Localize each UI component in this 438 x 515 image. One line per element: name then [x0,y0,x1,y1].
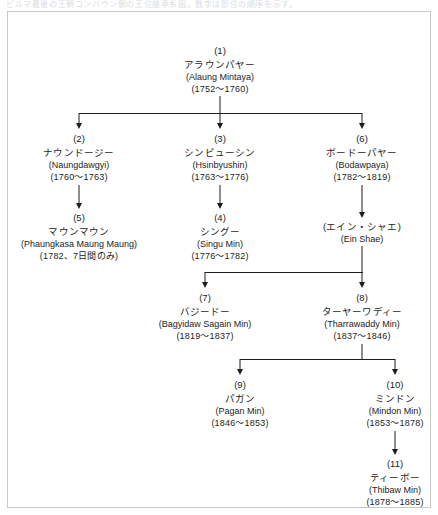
node-9-reign-years: (1846〜1853) [165,417,315,430]
connector-bus-gen1 [79,113,362,114]
node-ein-shae: (エイン・シャエ) (Ein Shae) [287,220,437,246]
arrowhead-to-node-6 [359,123,365,129]
arrowhead-to-node-11 [392,449,398,455]
node-3-name-romanized: (Hsinbyushin) [145,159,295,172]
node-7-name-romanized: (Bagyidaw Sagain Min) [125,318,285,331]
node-6-name-jp: ボードーパヤー [287,146,437,159]
node-10-name-romanized: (Mindon Min) [320,405,438,418]
connector-3-to-4 [220,185,221,204]
connector-10-to-11 [395,431,396,450]
node-4-number: (4) [145,212,295,225]
node-1-alaung-mintaya: (1) アラウンパヤー (Alaung Mintaya) (1752〜1760) [120,45,320,96]
node-8-reign-years: (1837〜1846) [282,330,438,343]
connector-6-to-ein-shae [362,185,363,213]
node-6-name-romanized: (Bodawpaya) [287,159,437,172]
node-5-name-jp: マウンマウン [0,225,164,238]
arrowhead-to-node-7 [202,282,208,288]
node-10-name-jp: ミンドン [320,392,438,405]
node-7-number: (7) [125,292,285,305]
node-9-pagan-min: (9) パガン (Pagan Min) (1846〜1853) [165,379,315,430]
node-ein-shae-name-romanized: (Ein Shae) [287,233,437,246]
connector-bus-gen3 [205,272,363,273]
arrowhead-to-node-4 [217,203,223,209]
arrowhead-to-node-8 [359,282,365,288]
node-11-name-jp: ティーボー [320,471,438,484]
node-6-number: (6) [287,133,437,146]
arrowhead-to-node-5 [76,203,82,209]
node-7-reign-years: (1819〜1837) [125,330,285,343]
node-5-name-romanized: (Phaungkasa Maung Maung) [0,238,164,251]
chart-frame: (1) アラウンパヤー (Alaung Mintaya) (1752〜1760)… [7,11,431,508]
arrowhead-to-node-2 [76,123,82,129]
connector-ein-shae-stem [362,246,363,272]
node-2-name-jp: ナウンドージー [4,146,154,159]
node-1-name-romanized: (Alaung Mintaya) [120,71,320,84]
connector-bus-gen4 [240,359,395,360]
node-8-number: (8) [282,292,438,305]
node-4-singu-min: (4) シングー (Singu Min) (1776〜1782) [145,212,295,263]
connector-8-stem [362,344,363,359]
node-8-tharrawaddy-min: (8) ターヤーワディー (Tharrawaddy Min) (1837〜184… [282,292,438,343]
node-2-naungdawgyi: (2) ナウンドージー (Naungdawgyi) (1760〜1763) [4,133,154,184]
node-3-number: (3) [145,133,295,146]
node-11-name-romanized: (Thibaw Min) [320,484,438,497]
node-7-bagyidaw-sagain-min: (7) バジードー (Bagyidaw Sagain Min) (1819〜18… [125,292,285,343]
arrowhead-to-node-9 [237,369,243,375]
node-3-hsinbyushin: (3) シンビューシン (Hsinbyushin) (1763〜1776) [145,133,295,184]
node-8-name-romanized: (Tharrawaddy Min) [282,318,438,331]
node-11-thibaw-min: (11) ティーボー (Thibaw Min) (1878〜1885) [320,458,438,509]
arrowhead-to-node-3 [217,123,223,129]
node-5-number: (5) [0,212,164,225]
node-1-reign-years: (1752〜1760) [120,83,320,96]
node-2-name-romanized: (Naungdawgyi) [4,159,154,172]
node-1-number: (1) [120,45,320,58]
node-11-reign-years: (1878〜1885) [320,496,438,509]
top-caption-text: ビルマ最後の王朝コンバウン朝の王位継承系図。数字は即位の順序を示す。 [0,0,438,9]
node-10-reign-years: (1853〜1878) [320,417,438,430]
connector-2-to-5 [79,185,80,204]
node-5-reign-years: (1782、7日間のみ) [0,250,164,263]
node-9-name-romanized: (Pagan Min) [165,405,315,418]
node-3-name-jp: シンビューシン [145,146,295,159]
node-6-bodawpaya: (6) ボードーパヤー (Bodawpaya) (1782〜1819) [287,133,437,184]
node-2-number: (2) [4,133,154,146]
node-3-reign-years: (1763〜1776) [145,171,295,184]
node-7-name-jp: バジードー [125,305,285,318]
connector-1-stem [220,96,221,113]
node-4-name-jp: シングー [145,225,295,238]
node-6-reign-years: (1782〜1819) [287,171,437,184]
node-4-name-romanized: (Singu Min) [145,238,295,251]
node-10-number: (10) [320,379,438,392]
node-9-name-jp: パガン [165,392,315,405]
node-ein-shae-name-jp: (エイン・シャエ) [287,220,437,233]
node-8-name-jp: ターヤーワディー [282,305,438,318]
node-1-name-jp: アラウンパヤー [120,58,320,71]
arrowhead-to-ein-shae [359,212,365,218]
node-4-reign-years: (1776〜1782) [145,250,295,263]
node-5-phaungkasa-maung-maung: (5) マウンマウン (Phaungkasa Maung Maung) (178… [0,212,164,263]
node-2-reign-years: (1760〜1763) [4,171,154,184]
node-11-number: (11) [320,458,438,471]
node-9-number: (9) [165,379,315,392]
arrowhead-to-node-10 [392,369,398,375]
node-10-mindon-min: (10) ミンドン (Mindon Min) (1853〜1878) [320,379,438,430]
succession-tree-diagram: (1) アラウンパヤー (Alaung Mintaya) (1752〜1760)… [8,12,432,509]
